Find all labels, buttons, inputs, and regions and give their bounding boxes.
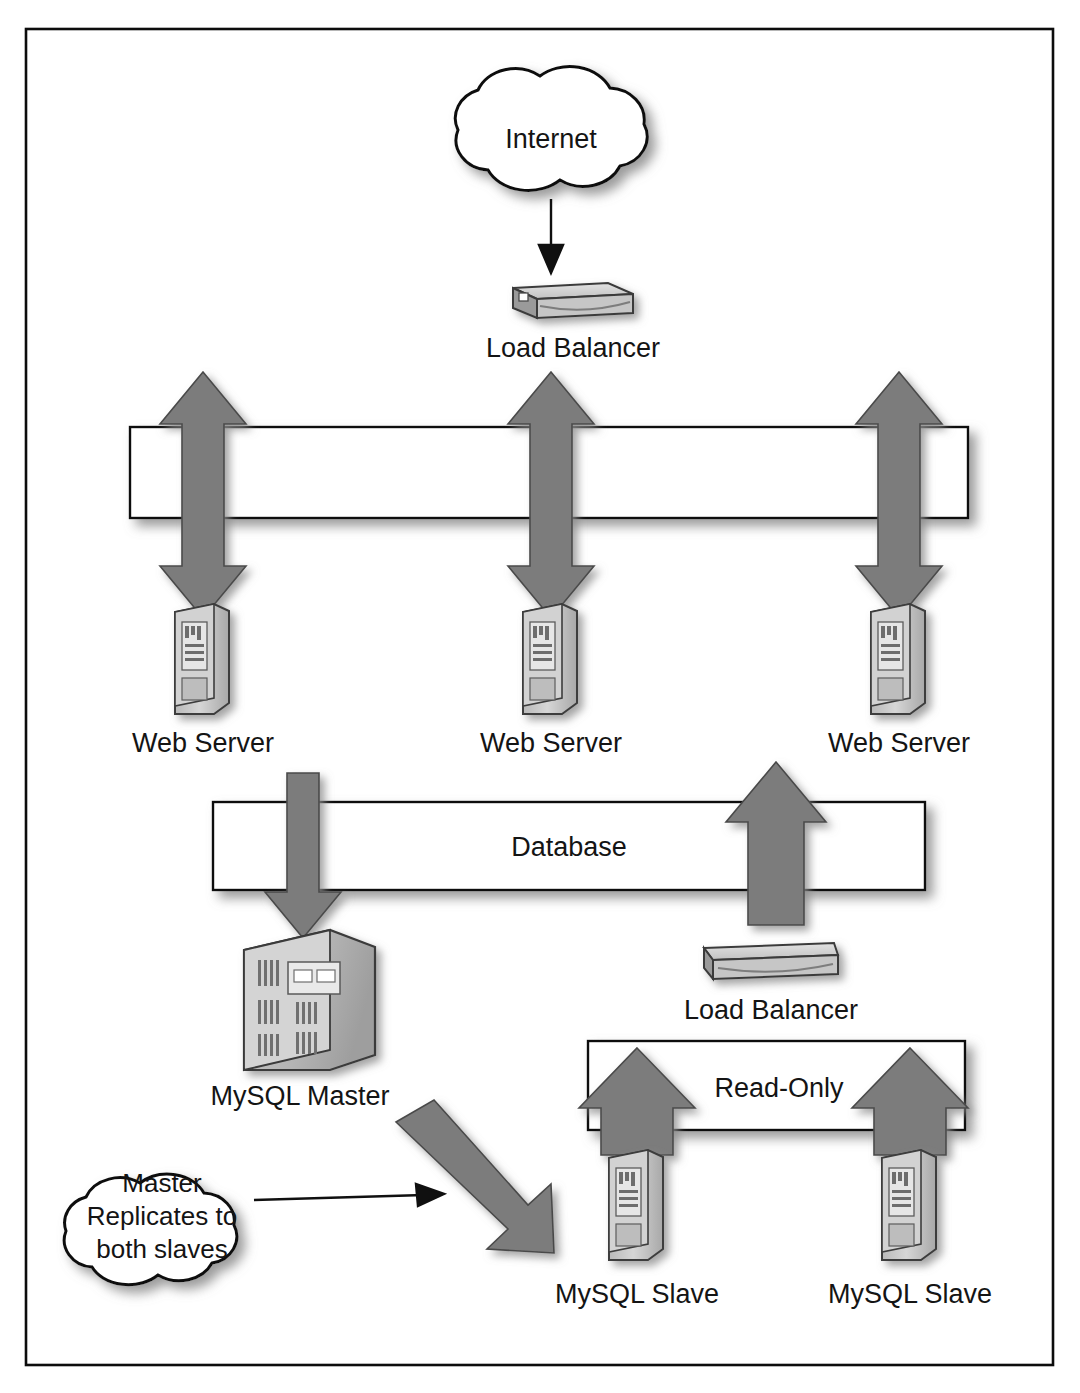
internet-label: Internet bbox=[505, 124, 597, 154]
node-internet: Internet bbox=[455, 67, 647, 191]
load-balancer-top-label: Load Balancer bbox=[486, 333, 660, 363]
replication-note-line-3: both slaves bbox=[96, 1234, 228, 1264]
node-web-server-3: Web Server bbox=[828, 604, 970, 758]
load-balancer-db-label: Load Balancer bbox=[684, 995, 858, 1025]
read-only-bar-label: Read-Only bbox=[714, 1073, 844, 1103]
architecture-diagram: Internet Load Balancer bbox=[0, 0, 1080, 1393]
appliance-icon bbox=[513, 283, 633, 318]
database-bar-label: Database bbox=[511, 832, 627, 862]
mysql-master-label: MySQL Master bbox=[210, 1081, 389, 1111]
arrow-internet-to-load-balancer bbox=[539, 199, 563, 273]
replication-note-line-1: Master bbox=[122, 1168, 202, 1198]
tower-server-icon bbox=[871, 604, 925, 714]
node-web-server-1: Web Server bbox=[132, 604, 274, 758]
node-load-balancer-top: Load Balancer bbox=[486, 283, 660, 363]
tower-server-icon bbox=[609, 1150, 663, 1260]
mainframe-box-icon bbox=[244, 930, 375, 1070]
arrow-replication-to-slaves bbox=[396, 1100, 554, 1253]
web-server-3-label: Web Server bbox=[828, 728, 970, 758]
node-web-server-2: Web Server bbox=[480, 604, 622, 758]
node-load-balancer-db: Load Balancer bbox=[684, 943, 858, 1025]
node-mysql-master: MySQL Master bbox=[210, 930, 389, 1111]
tower-server-icon bbox=[523, 604, 577, 714]
appliance-icon bbox=[704, 943, 838, 979]
replication-note-line-2: Replicates to bbox=[87, 1201, 237, 1231]
web-server-2-label: Web Server bbox=[480, 728, 622, 758]
mysql-slave-1-label: MySQL Slave bbox=[555, 1279, 719, 1309]
annotation-replication-note: Master Replicates to both slaves bbox=[64, 1168, 237, 1285]
node-mysql-slave-1: MySQL Slave bbox=[555, 1150, 719, 1309]
node-mysql-slave-2: MySQL Slave bbox=[828, 1150, 992, 1309]
tower-server-icon bbox=[175, 604, 229, 714]
tower-server-icon bbox=[882, 1150, 936, 1260]
mysql-slave-2-label: MySQL Slave bbox=[828, 1279, 992, 1309]
arrow-note-pointer bbox=[254, 1184, 444, 1206]
web-server-1-label: Web Server bbox=[132, 728, 274, 758]
